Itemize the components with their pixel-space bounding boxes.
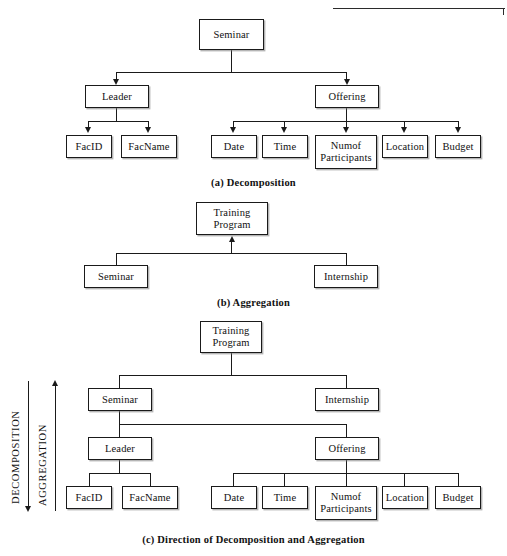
connector-offering-stem-a <box>346 108 347 122</box>
node-seminar-c[interactable]: Seminar <box>88 388 152 411</box>
connector-drop-numof-c <box>346 473 347 486</box>
node-label: Budget <box>440 141 475 153</box>
figure-canvas: Seminar Leader Offering FacID FacName <box>0 0 507 556</box>
node-label-line2: Participants <box>318 152 373 164</box>
node-numof-participants-a[interactable]: Numof Participants <box>315 135 377 169</box>
connector-riser-seminar-b <box>116 253 117 265</box>
arrowhead-up-aggregation <box>52 380 58 386</box>
connector-seminar-stem-c <box>119 411 120 425</box>
page-header-rule <box>333 8 505 9</box>
node-leader-c[interactable]: Leader <box>88 437 152 460</box>
node-label-line1: Training <box>211 325 252 337</box>
node-offering-c[interactable]: Offering <box>315 437 379 460</box>
caption-panel-a: (a) Decomposition <box>0 177 507 188</box>
connector-drop-date-c <box>233 473 234 486</box>
node-label: Offering <box>326 443 367 455</box>
node-date-c[interactable]: Date <box>211 486 257 509</box>
arrowhead-down-decomposition <box>25 506 31 512</box>
node-budget-a[interactable]: Budget <box>435 135 481 158</box>
connector-offering-stem-c <box>346 460 347 474</box>
connector-leader-stem-a <box>116 108 117 122</box>
connector-bus-level1-c <box>119 375 347 376</box>
node-label: Offering <box>326 91 367 103</box>
caption-panel-c: (c) Direction of Decomposition and Aggre… <box>0 534 507 545</box>
node-label: Internship <box>323 394 371 406</box>
node-label: Budget <box>440 492 475 504</box>
node-date-a[interactable]: Date <box>211 135 257 158</box>
node-offering-a[interactable]: Offering <box>315 85 379 108</box>
connector-training-stem-c <box>231 353 232 376</box>
node-label-line2: Program <box>210 337 251 349</box>
node-time-a[interactable]: Time <box>262 135 308 158</box>
node-internship-c[interactable]: Internship <box>315 388 379 411</box>
connector-bus-level1-a <box>116 72 347 73</box>
connector-drop-seminar-c <box>119 375 120 388</box>
connector-drop-location-c <box>404 473 405 486</box>
arrowhead-down-location-a <box>401 127 407 133</box>
node-label: Seminar <box>211 29 251 41</box>
connector-leader-stem-c <box>119 460 120 474</box>
arrowhead-down-numof-a <box>343 127 349 133</box>
node-label: FacID <box>74 141 105 153</box>
node-facname-a[interactable]: FacName <box>121 135 177 158</box>
connector-drop-facname-c <box>150 473 151 486</box>
node-training-program-b[interactable]: Training Program <box>196 202 268 235</box>
node-label: FacID <box>74 492 105 504</box>
connector-riser-internship-b <box>346 253 347 265</box>
arrowhead-down-facid-a <box>85 127 91 133</box>
node-leader-a[interactable]: Leader <box>85 85 149 108</box>
connector-drop-internship-c <box>346 375 347 388</box>
connector-seminar-stem-a <box>231 50 232 73</box>
connector-drop-leader-c <box>119 424 120 437</box>
node-label: Location <box>384 492 427 504</box>
node-training-program-c[interactable]: Training Program <box>200 321 262 353</box>
node-label: Seminar <box>96 271 136 283</box>
node-time-c[interactable]: Time <box>262 486 308 509</box>
arrowhead-up-training-program-b <box>229 236 235 242</box>
node-label-line1: Numof <box>329 491 364 503</box>
connector-drop-budget-c <box>458 473 459 486</box>
label-decomposition: DECOMPOSITION <box>10 386 21 504</box>
node-label: FacName <box>127 492 172 504</box>
node-location-a[interactable]: Location <box>382 135 428 158</box>
connector-drop-offering-c <box>346 424 347 437</box>
arrowhead-down-date-a <box>230 127 236 133</box>
page-header-rule-tick <box>503 8 504 15</box>
node-label: Seminar <box>100 394 140 406</box>
node-label: FacName <box>126 141 171 153</box>
node-facid-c[interactable]: FacID <box>66 486 112 509</box>
direction-axis-aggregation <box>55 386 56 511</box>
node-budget-c[interactable]: Budget <box>435 486 481 509</box>
connector-drop-time-c <box>284 473 285 486</box>
direction-axis-decomposition <box>28 381 29 507</box>
caption-panel-b: (b) Aggregation <box>0 297 507 308</box>
node-internship-b[interactable]: Internship <box>314 265 378 288</box>
node-numof-participants-c[interactable]: Numof Participants <box>315 486 377 520</box>
node-label: Internship <box>322 271 370 283</box>
node-label: Location <box>384 141 427 153</box>
node-label: Time <box>272 492 298 504</box>
arrowhead-down-facname-a <box>145 127 151 133</box>
node-label-line1: Numof <box>329 140 364 152</box>
arrowhead-down-budget-a <box>455 127 461 133</box>
node-label-line2: Program <box>211 219 252 231</box>
label-aggregation: AGGREGATION <box>37 396 48 506</box>
connector-bus-level2-c <box>119 424 347 425</box>
node-label-line1: Training <box>212 207 253 219</box>
connector-bus-leader-a <box>88 121 149 122</box>
node-seminar-a[interactable]: Seminar <box>199 19 264 50</box>
node-facname-c[interactable]: FacName <box>122 486 178 509</box>
connector-bus-leader-c <box>89 473 151 474</box>
node-label: Date <box>222 492 246 504</box>
node-label: Leader <box>103 443 137 455</box>
node-label: Date <box>222 141 246 153</box>
node-label: Leader <box>100 91 134 103</box>
node-label: Time <box>272 141 298 153</box>
node-facid-a[interactable]: FacID <box>66 135 112 158</box>
connector-drop-facid-c <box>89 473 90 486</box>
node-location-c[interactable]: Location <box>382 486 428 509</box>
arrowhead-down-time-a <box>281 127 287 133</box>
node-seminar-b[interactable]: Seminar <box>84 265 148 288</box>
node-label-line2: Participants <box>318 503 373 515</box>
connector-bus-level1-b <box>116 253 347 254</box>
